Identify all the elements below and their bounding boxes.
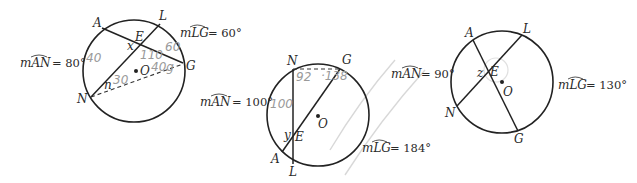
center-dot <box>500 80 504 84</box>
arc-measure-LG: mLG = 60° <box>180 25 242 40</box>
svg-text:mAN: mAN <box>391 67 422 81</box>
arc-measure-LG: mLG = 184° <box>362 140 431 155</box>
point-label-N: N <box>286 54 298 68</box>
point-label-O: O <box>140 64 150 78</box>
svg-text:mAN: mAN <box>20 56 51 70</box>
svg-text:= 100°: = 100° <box>232 95 273 109</box>
handwritten-note: 40 <box>86 51 102 65</box>
point-label-A: A <box>92 16 102 30</box>
point-label-G: G <box>514 132 524 146</box>
handwritten-note: 100 <box>270 97 293 111</box>
unknown-z: z <box>476 66 484 80</box>
point-label-A: A <box>270 152 280 166</box>
point-label-L: L <box>522 22 531 36</box>
point-label-A: A <box>464 26 474 40</box>
handwritten-note: 40g <box>151 60 174 74</box>
unknown-y: y <box>283 128 291 142</box>
arc-measure-LG: mLG = 130° <box>558 77 627 92</box>
handwritten-note: 30 <box>113 73 129 87</box>
point-label-G: G <box>342 53 352 67</box>
svg-text:mLG: mLG <box>558 78 587 92</box>
handwritten-note: 60 <box>165 40 181 54</box>
point-label-N: N <box>444 106 456 120</box>
point-label-L: L <box>288 165 297 179</box>
svg-text:mLG: mLG <box>362 141 391 155</box>
svg-text:mLG: mLG <box>180 26 209 40</box>
arc-measure-AN: mAN = 80° <box>20 55 86 70</box>
handwritten-note: ·138 <box>321 69 348 83</box>
point-label-O: O <box>503 85 513 99</box>
unknown-n: n <box>104 78 112 92</box>
svg-text:= 90°: = 90° <box>421 67 455 81</box>
point-label-E: E <box>294 130 304 144</box>
faint-pencil-mark <box>345 70 425 175</box>
handwritten-note: 92 <box>296 70 311 84</box>
svg-text:= 130°: = 130° <box>586 78 627 92</box>
point-label-E: E <box>489 65 499 79</box>
center-dot <box>134 69 138 73</box>
point-label-O: O <box>318 117 328 131</box>
svg-text:= 60°: = 60° <box>208 26 242 40</box>
circle-diagrams: A L E G N O x n mAN = 80° mLG = 60° 40 1… <box>0 0 637 183</box>
svg-text:= 184°: = 184° <box>390 141 431 155</box>
unknown-x: x <box>127 39 134 53</box>
arc-measure-AN: mAN = 100° <box>200 94 273 109</box>
point-label-L: L <box>158 9 167 23</box>
point-label-N: N <box>76 92 88 106</box>
svg-text:= 80°: = 80° <box>52 56 86 70</box>
figure-3: A L E N G O z mAN = 90° mLG = 130° <box>391 22 627 146</box>
svg-text:mAN: mAN <box>200 95 231 109</box>
point-label-E: E <box>134 30 144 44</box>
point-label-G: G <box>186 59 196 73</box>
arc-measure-AN: mAN = 90° <box>391 66 455 81</box>
